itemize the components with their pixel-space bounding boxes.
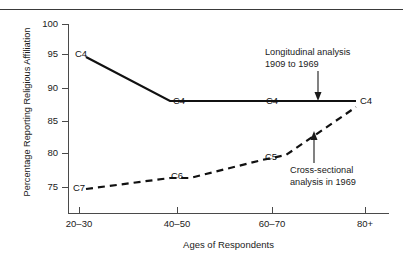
point-label-dashed-0: C7: [73, 183, 85, 193]
annotation-longitudinal: Longitudinal analysis 1909 to 1969: [265, 46, 350, 70]
annotation-cross-sectional-line2: analysis in 1969: [290, 176, 356, 188]
annotation-longitudinal-line1: Longitudinal analysis: [265, 46, 350, 58]
chart-figure: Percentage Reporting Religious Affiliati…: [0, 0, 403, 266]
annotation-longitudinal-line2: 1909 to 1969: [265, 58, 350, 70]
point-label-solid-0: C4: [75, 49, 87, 59]
cross-sectional-arrow-icon: [311, 131, 318, 163]
longitudinal-arrow-icon: [315, 71, 322, 101]
point-label-dashed-2: C5: [265, 152, 277, 162]
annotation-cross-sectional: Cross-sectional analysis in 1969: [290, 164, 356, 188]
point-label-solid-3: C4: [360, 96, 372, 106]
point-label-solid-2: C4: [266, 96, 278, 106]
point-label-solid-1: C4: [173, 96, 185, 106]
point-label-dashed-1: C6: [171, 171, 183, 181]
series-overlay: [0, 0, 403, 266]
annotation-cross-sectional-line1: Cross-sectional: [290, 164, 356, 176]
